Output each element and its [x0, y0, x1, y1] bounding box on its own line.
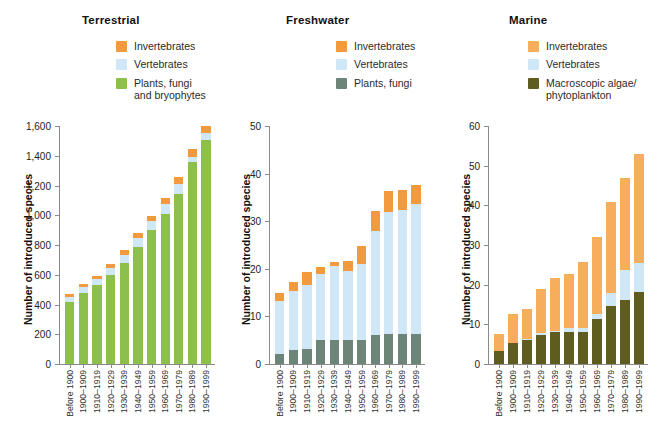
bar[interactable]	[341, 126, 355, 364]
y-axis-tick-label: 50	[442, 160, 480, 171]
bar[interactable]	[104, 126, 118, 364]
bar-segment	[578, 262, 588, 327]
x-axis-tick-cell: 1980–1989	[618, 365, 632, 431]
bar[interactable]	[355, 126, 369, 364]
bar-segment	[188, 162, 197, 364]
bar-segment	[371, 231, 380, 335]
bar[interactable]	[77, 126, 91, 364]
x-axis-tick-label: 1960–1969	[160, 370, 170, 413]
legend-swatch-invertebrates-icon	[528, 41, 539, 52]
legend-swatch-invertebrates-icon	[116, 41, 127, 52]
x-axis-tick-cell: 1990–1999	[199, 365, 213, 431]
legend-label: Plants, fungi	[134, 77, 192, 89]
bar-segment	[65, 302, 74, 364]
bar-segment	[564, 332, 574, 364]
bar-segment	[522, 309, 532, 339]
y-axis-tick	[55, 275, 59, 276]
y-axis-tick	[484, 245, 488, 246]
bar[interactable]	[382, 126, 396, 364]
y-axis-tick	[55, 245, 59, 246]
bar-segment	[564, 274, 574, 328]
bar[interactable]	[172, 126, 186, 364]
bar-segment	[522, 340, 532, 364]
y-axis-tick-label: 30	[223, 216, 261, 227]
x-axis-tick-cell: 1900–1909	[506, 365, 520, 431]
legend-swatch-vertebrates-icon	[528, 59, 539, 70]
bar-segment	[592, 237, 602, 314]
x-axis-tick-label: 1900–1909	[288, 370, 298, 413]
bar[interactable]	[314, 126, 328, 364]
bar[interactable]	[145, 126, 159, 364]
bar-segment	[384, 191, 393, 211]
legend-item: Invertebrates	[528, 40, 636, 52]
x-axis-tick-cell: 1930–1939	[328, 365, 342, 431]
bar[interactable]	[300, 126, 314, 364]
bar-segment	[106, 268, 115, 275]
bar-segment	[289, 350, 298, 364]
x-axis-tick	[206, 365, 207, 368]
bar[interactable]	[273, 126, 287, 364]
bar[interactable]	[562, 126, 576, 364]
bar-segment	[316, 340, 325, 364]
bar[interactable]	[409, 126, 423, 364]
bar[interactable]	[328, 126, 342, 364]
y-axis-tick-label: 40	[442, 200, 480, 211]
x-axis-tick-label: 1940–1949	[343, 370, 353, 413]
y-axis-tick-label: 20	[442, 279, 480, 290]
bar[interactable]	[604, 126, 618, 364]
bar-segment	[120, 263, 129, 364]
y-axis-tick	[484, 285, 488, 286]
x-axis-tick-label: 1900–1909	[508, 370, 518, 413]
legend-item: Invertebrates	[116, 40, 206, 52]
bar[interactable]	[534, 126, 548, 364]
bar[interactable]	[492, 126, 506, 364]
y-axis-tick	[265, 221, 269, 222]
x-axis-tick-cell: 1980–1989	[396, 365, 410, 431]
bar[interactable]	[368, 126, 382, 364]
y-axis-tick	[55, 215, 59, 216]
x-axis-tick-label: 1910–1919	[92, 370, 102, 413]
bar[interactable]	[576, 126, 590, 364]
bar-segment	[357, 264, 366, 340]
y-axis-tick	[265, 316, 269, 317]
y-axis-tick-label: 60	[442, 121, 480, 132]
bar-segment	[201, 140, 210, 364]
x-axis-tick-label: 1910–1919	[302, 370, 312, 413]
bar[interactable]	[199, 126, 213, 364]
bar-segment	[357, 340, 366, 364]
bar-segment	[578, 332, 588, 364]
bar[interactable]	[131, 126, 145, 364]
bar[interactable]	[63, 126, 77, 364]
x-axis-tick	[280, 365, 281, 368]
x-axis-tick-cell: 1940–1949	[341, 365, 355, 431]
bar[interactable]	[186, 126, 200, 364]
legend-swatch-invertebrates-icon	[336, 41, 347, 52]
bar[interactable]	[118, 126, 132, 364]
x-axis-tick-cell: 1960–1969	[158, 365, 172, 431]
bar[interactable]	[618, 126, 632, 364]
bar[interactable]	[548, 126, 562, 364]
x-axis-tick-label: 1990–1999	[201, 370, 211, 413]
x-axis-tick	[192, 365, 193, 368]
legend-label: Vertebrates	[354, 58, 408, 70]
x-axis-tick-cell: 1950–1959	[145, 365, 159, 431]
bar[interactable]	[520, 126, 534, 364]
bar[interactable]	[90, 126, 104, 364]
bar-segment	[398, 210, 407, 334]
bar[interactable]	[632, 126, 646, 364]
bar[interactable]	[590, 126, 604, 364]
legend-item: Vertebrates	[116, 58, 206, 70]
bar[interactable]	[506, 126, 520, 364]
bar[interactable]	[287, 126, 301, 364]
bar-segment	[343, 261, 352, 271]
y-axis-tick-label: 1,400	[13, 150, 51, 161]
bar[interactable]	[158, 126, 172, 364]
x-axis-tick	[611, 365, 612, 368]
bar[interactable]	[396, 126, 410, 364]
x-axis-tick-label: 1930–1939	[550, 370, 560, 413]
bar-segment	[316, 274, 325, 340]
legend-label: Invertebrates	[546, 40, 607, 52]
x-axis-tick-cell: 1990–1999	[632, 365, 646, 431]
y-axis-tick-label: 40	[223, 168, 261, 179]
x-axis-tick	[321, 365, 322, 368]
